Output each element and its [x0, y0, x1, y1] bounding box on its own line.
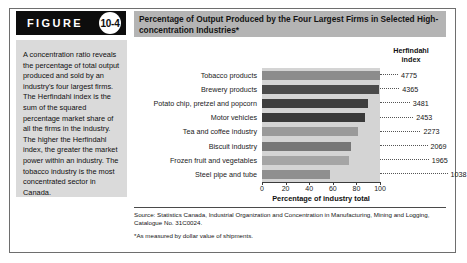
bar [262, 142, 351, 151]
source-divider [134, 207, 446, 208]
category-label-row: Steel pipe and tube [134, 167, 261, 181]
leader-dots [380, 88, 399, 90]
herfindahl-value: 2069 [431, 142, 447, 151]
bar [262, 99, 368, 108]
herfindahl-value: 4365 [402, 85, 418, 94]
leader-dots [380, 145, 428, 147]
source-footnote: *As measured by dollar value of shipment… [134, 232, 449, 240]
figure-badge: FIGURE 10-4 [16, 11, 126, 35]
leader-dots [380, 102, 410, 104]
x-axis-line [262, 182, 380, 183]
herfindahl-row: 2069 [380, 139, 446, 153]
source-line: Source: Statistics Canada, Industrial Or… [134, 211, 449, 228]
category-label: Brewery products [201, 85, 261, 94]
category-label: Tea and coffee industry [183, 127, 261, 136]
herfindahl-value: 4775 [401, 71, 417, 80]
x-axis-tick-label: 60 [329, 185, 337, 192]
herfindahl-row: 2273 [380, 125, 446, 139]
leader-dots [380, 159, 429, 161]
herfindahl-row: 2453 [380, 111, 446, 125]
herfindahl-value: 2273 [423, 127, 439, 136]
herfindahl-row: 1038 [380, 167, 446, 181]
page-title: Percentage of Output Produced by the Fou… [139, 14, 439, 35]
herfindahl-value: 2453 [416, 113, 432, 122]
herfindahl-row: 4365 [380, 82, 446, 96]
x-axis-tick-label: 40 [305, 185, 313, 192]
category-label-row: Potato chip, pretzel and popcorn [134, 96, 261, 110]
category-label-row: Motor vehicles [134, 111, 261, 125]
x-axis-tick-label: 20 [282, 185, 290, 192]
x-axis-title: Percentage of industry total [262, 194, 380, 203]
figure-badge-word: FIGURE [27, 17, 83, 29]
herfindahl-row: 1965 [380, 153, 446, 167]
bar-row [262, 82, 380, 96]
category-label: Potato chip, pretzel and popcorn [154, 99, 262, 108]
herfindahl-value: 1038 [451, 170, 467, 179]
figure-title-band: Percentage of Output Produced by the Fou… [134, 11, 446, 37]
bar [262, 170, 330, 179]
bar-row [262, 125, 380, 139]
bar-row [262, 96, 380, 110]
herfindahl-row: 4775 [380, 68, 446, 82]
bar [262, 85, 379, 94]
bar-row [262, 139, 380, 153]
sidebar-description-panel: A concentration ratio reveals the percen… [16, 40, 127, 197]
bar-row [262, 167, 380, 181]
bar [262, 113, 365, 122]
category-label-row: Brewery products [134, 82, 261, 96]
category-label: Biscuit industry [209, 142, 261, 151]
category-label-row: Tobacco products [134, 68, 261, 82]
bar-row [262, 111, 380, 125]
x-axis-tick-label: 100 [374, 185, 386, 192]
bar-row [262, 153, 380, 167]
category-label-row: Frozen fruit and vegetables [134, 153, 261, 167]
leader-dots [380, 117, 413, 119]
leader-dots [380, 173, 448, 175]
bar-row [262, 68, 380, 82]
category-label: Motor vehicles [211, 113, 261, 122]
herfindahl-values-column: 47754365348124532273206919651038 [380, 68, 446, 182]
herfindahl-value: 3481 [413, 99, 429, 108]
category-label-row: Tea and coffee industry [134, 125, 261, 139]
figure-number-circle: 10-4 [99, 12, 121, 34]
herfindahl-header-line: Herfindahl [380, 46, 442, 55]
category-label: Frozen fruit and vegetables [170, 156, 261, 165]
category-axis-labels: Tobacco productsBrewery productsPotato c… [134, 68, 261, 182]
herfindahl-column-header: Herfindahlindex [380, 46, 442, 65]
category-label: Tobacco products [201, 71, 261, 80]
sidebar-description-text: A concentration ratio reveals the percen… [23, 50, 121, 198]
x-axis-tick-label: 80 [352, 185, 360, 192]
bar [262, 127, 358, 136]
category-label-row: Biscuit industry [134, 139, 261, 153]
bar [262, 156, 349, 165]
figure-container: FIGURE 10-4 A concentration ratio reveal… [0, 0, 467, 263]
herfindahl-value: 1965 [432, 156, 448, 165]
herfindahl-header-line: index [380, 55, 442, 64]
plot-area [262, 68, 380, 182]
category-label: Steel pipe and tube [195, 170, 261, 179]
figure-number: 10-4 [101, 18, 120, 29]
herfindahl-row: 3481 [380, 96, 446, 110]
bar [262, 71, 380, 80]
x-axis-tick-label: 0 [260, 185, 264, 192]
leader-dots [380, 131, 420, 133]
chart: Herfindahlindex Tobacco productsBrewery … [134, 42, 446, 200]
leader-dots [380, 74, 398, 76]
